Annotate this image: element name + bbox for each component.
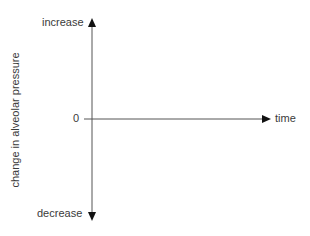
decrease-label: decrease [37,207,82,219]
axes-diagram [0,0,310,236]
increase-label: increase [42,16,84,28]
x-axis [84,115,271,123]
zero-label: 0 [73,112,79,124]
time-label: time [275,112,296,124]
up-arrow-icon [88,18,96,27]
down-arrow-icon [88,212,96,221]
y-axis-label: change in alveolar pressure [9,52,21,187]
right-arrow-icon [262,115,271,123]
